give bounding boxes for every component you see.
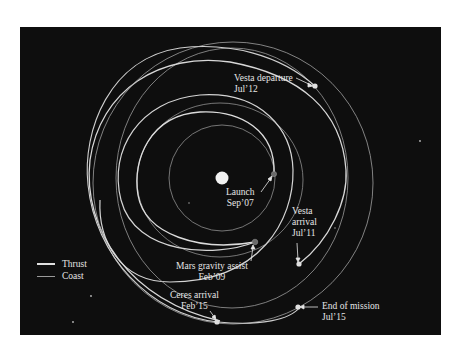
label-launch: Launch Sep’07 bbox=[226, 187, 255, 209]
marker-ceres-arrival bbox=[214, 319, 219, 324]
sun bbox=[216, 172, 229, 185]
legend-label-thrust: Thrust bbox=[62, 259, 87, 269]
label-mars-gravity-assist: Mars gravity assist Feb’09 bbox=[176, 261, 248, 283]
marker-vesta-arrival bbox=[296, 261, 301, 266]
label-mars-title: Mars gravity assist bbox=[176, 261, 248, 272]
label-end-of-mission: End of mission Jul’15 bbox=[322, 301, 380, 323]
thrust-line-swatch bbox=[37, 263, 55, 265]
label-end-title: End of mission bbox=[322, 301, 380, 312]
legend: Thrust Coast bbox=[37, 258, 87, 282]
orbit-diagram bbox=[0, 0, 459, 345]
marker-mars-gravity-assist bbox=[252, 239, 258, 245]
label-ceres-arrival: Ceres arrival Feb’15 bbox=[170, 290, 219, 312]
label-vesta-departure-date: Jul’12 bbox=[234, 84, 293, 95]
label-launch-title: Launch bbox=[226, 187, 255, 198]
label-vesta-departure: Vesta departure Jul’12 bbox=[234, 73, 293, 95]
label-vesta-arrival-l2: arrival bbox=[292, 217, 317, 228]
coast-line-swatch bbox=[37, 276, 55, 277]
legend-label-coast: Coast bbox=[62, 271, 84, 281]
label-ceres-date: Feb’15 bbox=[170, 301, 219, 312]
label-launch-date: Sep’07 bbox=[226, 198, 255, 209]
legend-item-thrust: Thrust bbox=[37, 258, 87, 270]
label-vesta-arrival-date: Jul’11 bbox=[292, 228, 317, 239]
legend-item-coast: Coast bbox=[37, 270, 87, 282]
label-ceres-title: Ceres arrival bbox=[170, 290, 219, 301]
label-vesta-arrival-l1: Vesta bbox=[292, 206, 317, 217]
label-vesta-departure-title: Vesta departure bbox=[234, 73, 293, 84]
label-end-date: Jul’15 bbox=[322, 312, 380, 323]
stars bbox=[72, 140, 421, 323]
label-mars-date: Feb’09 bbox=[176, 272, 248, 283]
label-vesta-arrival: Vesta arrival Jul’11 bbox=[292, 206, 317, 239]
thrust-arc-earth-mars bbox=[137, 112, 274, 245]
